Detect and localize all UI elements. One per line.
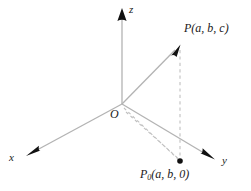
projection-line-lower — [126, 112, 180, 160]
z-axis-label: z — [129, 4, 133, 15]
axes-group — [37, 19, 204, 153]
point-p0-dot — [177, 158, 183, 164]
x-axis-label: x — [9, 152, 14, 163]
x-axis-arrowhead — [26, 146, 41, 156]
point-p0-label-rest: (a, b, 0) — [151, 167, 189, 181]
point-p0-label-subscript: 0 — [147, 173, 151, 182]
coordinate-system-figure: z x y O P(a, b, c) P0(a, b, 0) — [0, 0, 251, 191]
y-axis-label: y — [222, 155, 227, 166]
dashed-construction-group — [124, 50, 180, 160]
vector-op-line — [122, 50, 175, 104]
vector-op-arrowhead — [170, 45, 180, 58]
origin-label: O — [110, 108, 119, 120]
y-axis-arrowhead — [200, 148, 215, 159]
point-p-label: P(a, b, c) — [184, 22, 229, 34]
z-axis-arrowhead — [117, 8, 126, 21]
point-p0-label: P0(a, b, 0) — [140, 168, 189, 180]
y-axis-line — [122, 104, 204, 153]
